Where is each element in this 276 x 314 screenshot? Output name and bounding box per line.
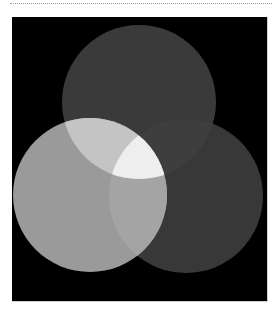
venn-diagram [0,0,276,314]
